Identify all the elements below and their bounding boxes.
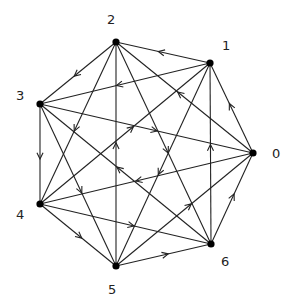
node-6: [207, 240, 214, 247]
node-label-0: 0: [272, 146, 280, 161]
nodes-group: [36, 38, 256, 269]
edge-4-to-1: [40, 63, 210, 204]
edge-1-to-5: [116, 63, 210, 266]
node-3: [36, 100, 43, 107]
edge-2-to-4: [40, 42, 116, 204]
node-label-6: 6: [221, 254, 229, 269]
edge-0-to-2: [116, 42, 253, 153]
graph-canvas: 0123456: [0, 0, 292, 306]
edges-group: [37, 42, 253, 266]
node-4: [36, 200, 43, 207]
edge-6-to-3: [40, 104, 211, 244]
node-label-5: 5: [108, 282, 116, 297]
node-5: [112, 262, 119, 269]
tournament-graph: 0123456: [0, 0, 292, 306]
edge-0-to-4: [40, 153, 253, 204]
edge-6-to-0: [211, 153, 253, 244]
edge-6-to-1: [210, 63, 211, 244]
node-label-4: 4: [16, 207, 24, 222]
edge-1-to-2: [116, 42, 210, 63]
edge-4-to-6: [40, 204, 211, 244]
node-0: [249, 149, 256, 156]
edge-5-to-6: [116, 244, 211, 266]
node-label-2: 2: [107, 12, 115, 27]
edge-0-to-1: [210, 63, 253, 153]
edge-3-to-0: [40, 104, 253, 153]
labels-group: 0123456: [16, 12, 280, 297]
node-label-3: 3: [16, 88, 24, 103]
node-2: [112, 38, 119, 45]
edge-2-to-6: [116, 42, 211, 244]
node-label-1: 1: [222, 38, 230, 53]
node-1: [206, 59, 213, 66]
